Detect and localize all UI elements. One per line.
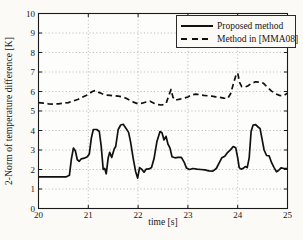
legend: Proposed method Method in [MMA08] [176,15,296,48]
legend-label: Proposed method [217,21,283,31]
y-tick-label: 2 [31,165,36,175]
dashed-line-icon [181,38,213,40]
y-tick-label: 1 [31,184,36,194]
x-axis-label: time [s] [38,217,288,227]
y-axis-label: 2-Norm of temperature difference [K] [4,11,14,211]
y-tick-label: 4 [31,126,36,136]
solid-line-icon [181,25,213,27]
y-tick-label: 3 [31,145,36,155]
legend-item-proposed-method: Proposed method [181,19,292,32]
y-tick-label: 9 [31,28,36,38]
legend-item-method-mma08: Method in [MMA08] [181,32,292,45]
figure-container: 202122232425012345678910 2-Norm of tempe… [0,0,303,240]
y-tick-label: 10 [26,9,36,19]
y-tick-label: 6 [31,87,36,97]
y-tick-label: 8 [31,48,36,58]
legend-label: Method in [MMA08] [217,34,298,44]
y-tick-label: 5 [31,106,36,116]
y-tick-label: 0 [31,204,36,214]
y-tick-label: 7 [31,67,36,77]
